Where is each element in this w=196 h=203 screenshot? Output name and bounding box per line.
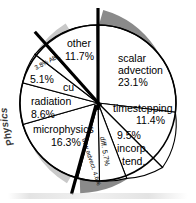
- label-timestepping-line1: timestepping: [113, 102, 173, 114]
- label-scalar-advection-line2: advection: [118, 64, 163, 76]
- label-radiation-line1: radiation: [31, 95, 71, 107]
- label-incorp-tend-line3: tend.: [122, 155, 145, 167]
- label-scalar-advection-line3: 23.1%: [118, 76, 148, 88]
- label-microphysics-line1: microphysics: [33, 123, 94, 135]
- label-radiation-line2: 8.6%: [31, 108, 55, 120]
- label-other-line1: other: [67, 37, 91, 49]
- pie-chart-svg: scalar advection 23.1% timestepping 11.4…: [0, 0, 196, 203]
- page-artifact: [8, 193, 188, 199]
- label-incorp-tend-line1: 9.5%: [117, 129, 141, 141]
- pie-chart-figure: scalar advection 23.1% timestepping 11.4…: [0, 0, 196, 203]
- group-label-physics: Physics: [0, 107, 16, 148]
- label-scalar-advection-line1: scalar: [118, 52, 147, 64]
- label-other-line2: 11.7%: [65, 50, 94, 62]
- label-timestepping-line2: 11.4%: [136, 114, 165, 126]
- label-incorp-tend-line2: incorp.: [117, 142, 149, 154]
- label-cu-line2: cu: [63, 81, 74, 93]
- label-microphysics-line2: 16.3%: [51, 136, 81, 148]
- label-cu-line1: 5.1%: [30, 73, 54, 85]
- group-label-dynamics: Dynamics: [172, 47, 195, 97]
